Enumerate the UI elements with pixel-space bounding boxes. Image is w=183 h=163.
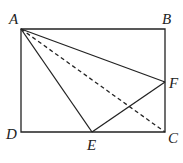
label-b: B [162,11,171,27]
segment-af [21,29,165,82]
segment-ae [21,29,92,132]
geometry-diagram: A B C D E F [0,0,183,163]
label-c: C [168,130,179,146]
label-f: F [168,75,179,91]
label-e: E [86,137,96,153]
label-a: A [8,11,19,27]
label-d: D [5,126,17,142]
diagonal-ac-dashed [21,29,165,132]
